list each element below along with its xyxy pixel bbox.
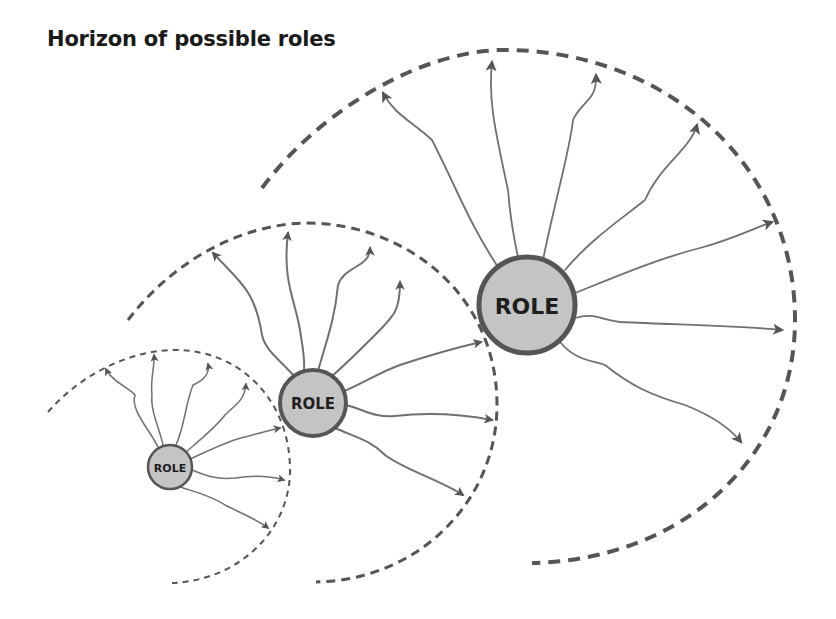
role-group-medium: ROLE (128, 223, 497, 582)
role-ray-arrow (543, 75, 596, 260)
role-ray-arrow (186, 384, 246, 452)
role-group-small: ROLE (48, 350, 290, 583)
role-ray-arrow (176, 364, 208, 445)
role-ray-arrow (190, 428, 280, 459)
role-ray-arrow (346, 405, 492, 420)
role-group-large: ROLE (262, 50, 795, 563)
role-ray-arrow (383, 93, 498, 267)
role-ray-arrow (491, 62, 518, 257)
role-ray-arrow (286, 233, 304, 371)
rays-small (106, 355, 284, 528)
rays-large (383, 62, 782, 442)
role-ray-arrow (180, 487, 268, 528)
role-ray-arrow (106, 369, 158, 447)
role-ray-arrow (560, 342, 741, 442)
role-ray-arrow (152, 355, 163, 445)
horizon-diagram: ROLE ROLE ROLE (0, 0, 836, 619)
role-ray-arrow (192, 470, 284, 480)
role-ray-arrow (565, 125, 697, 270)
role-ray-arrow (318, 248, 370, 371)
role-ray-arrow (342, 342, 481, 392)
role-ray-arrow (575, 316, 782, 330)
role-ray-arrow (213, 253, 294, 376)
role-label-small: ROLE (154, 462, 186, 475)
role-label-large: ROLE (495, 294, 560, 319)
role-ray-arrow (335, 428, 463, 495)
role-ray-arrow (332, 282, 400, 376)
role-label-medium: ROLE (291, 395, 335, 413)
rays-medium (213, 233, 492, 495)
